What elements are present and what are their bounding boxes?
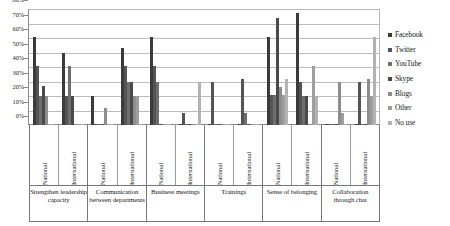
- category-label: Collaboration through chat: [322, 185, 379, 221]
- legend-item[interactable]: Blogs: [388, 86, 448, 101]
- category-cell: NationalInternationalBusiness meetings: [146, 125, 204, 221]
- subgroup-label-international: International: [117, 125, 146, 185]
- y-axis-tick-label: 80%: [13, 0, 24, 3]
- subgroup-label-text: National: [41, 162, 48, 185]
- bar-fill: [136, 96, 139, 125]
- bar-fill: [156, 82, 159, 126]
- bar-group: [58, 9, 87, 125]
- bar-group: [322, 9, 351, 125]
- subgroup-row: NationalInternational: [147, 125, 204, 185]
- subgroup-label-national: National: [205, 125, 233, 185]
- category-cell: NationalInternationalCommunication betwe…: [87, 125, 145, 221]
- subgroup-label-text: National: [157, 162, 164, 185]
- legend-label: YouTube: [395, 60, 421, 68]
- legend-label: Twitter: [395, 46, 416, 54]
- subgroup-row: NationalInternational: [205, 125, 262, 185]
- legend-label: Blogs: [395, 90, 412, 98]
- bar-fill: [211, 82, 214, 126]
- subgroup-label-international: International: [291, 125, 320, 185]
- subgroup-label-text: International: [303, 151, 310, 185]
- category-label: Business meetings: [147, 185, 204, 221]
- bar-fill: [71, 96, 74, 125]
- legend-item[interactable]: Twitter: [388, 43, 448, 58]
- y-axis-tick-label: 50%: [13, 40, 24, 46]
- subgroup-label-text: National: [332, 162, 339, 185]
- y-axis-tick-label: 40%: [13, 55, 24, 61]
- subgroup-row: NationalInternational: [263, 125, 320, 185]
- bar-group: [175, 9, 204, 125]
- subgroup-label-text: National: [274, 162, 281, 185]
- subgroup-row: NationalInternational: [322, 125, 379, 185]
- legend-label: Facebook: [395, 31, 423, 39]
- legend: FacebookTwitterYouTubeSkypeBlogsOtherNo …: [388, 28, 448, 130]
- bar-groups: [29, 9, 380, 125]
- y-axis-tick-label: 0%: [16, 113, 24, 119]
- bar-fill: [305, 96, 308, 125]
- subgroup-label-text: International: [186, 151, 193, 185]
- subgroup-label-national: National: [30, 125, 58, 185]
- legend-swatch-icon: [388, 62, 392, 66]
- bar-fill: [45, 96, 48, 125]
- subgroup-label-text: National: [99, 162, 106, 185]
- category-label: Sense of belonging: [263, 185, 320, 221]
- legend-label: Skype: [395, 75, 413, 83]
- subgroup-label-text: International: [128, 151, 135, 185]
- legend-item[interactable]: Skype: [388, 72, 448, 87]
- x-axis-baseline: [29, 221, 380, 222]
- legend-item[interactable]: No use: [388, 116, 448, 131]
- subgroup-label-text: National: [216, 162, 223, 185]
- bar-group: [263, 9, 292, 125]
- bar-fill: [91, 96, 94, 125]
- subgroup-row: NationalInternational: [88, 125, 145, 185]
- subgroup-row: NationalInternational: [30, 125, 87, 185]
- subgroup-label-text: International: [361, 151, 368, 185]
- category-cell: NationalInternationalStrengthen leadersh…: [29, 125, 87, 221]
- y-axis-tick: [24, 0, 28, 1]
- subgroup-label-text: International: [245, 151, 252, 185]
- bar-group: [205, 9, 234, 125]
- legend-swatch-icon: [388, 121, 392, 125]
- bar-group: [88, 9, 117, 125]
- bar-group: [234, 9, 263, 125]
- legend-label: No use: [395, 119, 415, 127]
- category-label: Strengthen leadership capacity: [30, 185, 87, 221]
- subgroup-label-national: National: [263, 125, 291, 185]
- legend-swatch-icon: [388, 106, 392, 110]
- subgroup-label-international: International: [58, 125, 87, 185]
- subgroup-label-text: International: [70, 151, 77, 185]
- legend-swatch-icon: [388, 48, 392, 52]
- y-axis-tick-label: 20%: [13, 84, 24, 90]
- legend-item[interactable]: Facebook: [388, 28, 448, 43]
- x-axis-categories: NationalInternationalStrengthen leadersh…: [29, 125, 380, 221]
- subgroup-label-national: National: [88, 125, 116, 185]
- subgroup-label-national: National: [147, 125, 175, 185]
- plot-area: [28, 9, 380, 125]
- bar-fill: [315, 96, 318, 125]
- y-axis-tick-label: 30%: [13, 69, 24, 75]
- bar-fill: [358, 82, 361, 126]
- subgroup-label-international: International: [175, 125, 204, 185]
- bar-chart: 0%10%20%30%40%50%60%70%80% NationalInter…: [0, 0, 450, 226]
- category-cell: NationalInternationalTrainings: [204, 125, 262, 221]
- bar-fill: [198, 82, 201, 126]
- subgroup-label-national: National: [322, 125, 350, 185]
- y-axis-tick-label: 60%: [13, 26, 24, 32]
- bar-group: [29, 9, 58, 125]
- bar-group: [292, 9, 321, 125]
- category-label: Communication between departments: [88, 185, 145, 221]
- subgroup-label-international: International: [233, 125, 262, 185]
- y-axis-tick-label: 10%: [13, 98, 24, 104]
- legend-swatch-icon: [388, 33, 392, 37]
- category-cell: NationalInternationalSense of belonging: [262, 125, 320, 221]
- y-axis-tick-label: 70%: [13, 11, 24, 17]
- legend-item[interactable]: YouTube: [388, 57, 448, 72]
- bar-fill: [373, 37, 376, 125]
- bar-group: [146, 9, 175, 125]
- legend-swatch-icon: [388, 92, 392, 96]
- legend-label: Other: [395, 104, 411, 112]
- bar-fill: [285, 79, 288, 125]
- subgroup-label-international: International: [350, 125, 379, 185]
- bar-group: [351, 9, 380, 125]
- category-label: Trainings: [205, 185, 262, 221]
- legend-item[interactable]: Other: [388, 101, 448, 116]
